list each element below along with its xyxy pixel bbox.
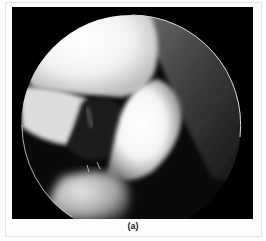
figure-caption: (a) <box>0 221 266 231</box>
scope-view-graphic <box>12 7 253 219</box>
arthroscopic-image <box>12 7 253 219</box>
